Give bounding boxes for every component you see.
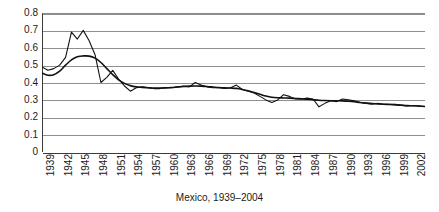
x-tick-label: 1960 — [170, 154, 180, 176]
y-tick-label: 0.1 — [4, 130, 38, 140]
x-tick-label: 1996 — [382, 154, 392, 176]
y-tick-label: 0.8 — [4, 8, 38, 18]
x-tick-label: 1966 — [205, 154, 215, 176]
x-axis-labels: 1939194219451948195119541957196019631966… — [42, 154, 425, 192]
data-layer — [42, 13, 425, 152]
y-tick-label: 0.5 — [4, 60, 38, 70]
x-tick-label: 1969 — [223, 154, 233, 176]
chart-screenshot: 00.10.20.30.40.50.60.70.8 19391942194519… — [0, 0, 439, 212]
x-tick-label: 1984 — [311, 154, 321, 176]
x-tick-label: 1954 — [134, 154, 144, 176]
y-tick-label: 0.3 — [4, 95, 38, 105]
y-tick-label: 0.2 — [4, 112, 38, 122]
y-tick-label: 0.6 — [4, 43, 38, 53]
series-smoothed-trend — [42, 56, 425, 107]
x-tick-label: 1942 — [64, 154, 74, 176]
x-tick-label: 1957 — [152, 154, 162, 176]
y-tick-label: 0.7 — [4, 25, 38, 35]
x-tick-label: 1987 — [329, 154, 339, 176]
series-observed — [42, 30, 425, 106]
y-tick-label: 0.4 — [4, 78, 38, 88]
x-tick-label: 1963 — [187, 154, 197, 176]
y-axis-labels: 00.10.20.30.40.50.60.70.8 — [0, 13, 38, 152]
x-tick-label: 1981 — [293, 154, 303, 176]
x-tick-label: 2002 — [417, 154, 427, 176]
x-tick-label: 1948 — [99, 154, 109, 176]
x-tick-label: 1993 — [364, 154, 374, 176]
x-tick-label: 1951 — [117, 154, 127, 176]
x-tick-label: 1978 — [276, 154, 286, 176]
x-tick-label: 1945 — [81, 154, 91, 176]
x-tick-label: 1972 — [240, 154, 250, 176]
y-tick-label: 0 — [4, 147, 38, 157]
x-tick-label: 1990 — [347, 154, 357, 176]
x-tick-label: 1939 — [46, 154, 56, 176]
x-tick-label: 1975 — [258, 154, 268, 176]
x-tick-label: 1999 — [400, 154, 410, 176]
chart-caption: Mexico, 1939–2004 — [0, 192, 439, 204]
